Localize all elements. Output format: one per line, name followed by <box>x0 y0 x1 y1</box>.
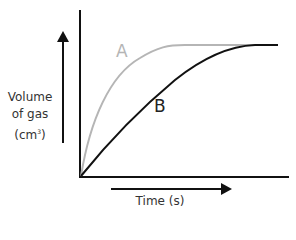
x-axis-label: Time (s) <box>120 194 200 208</box>
curve-b <box>81 45 278 176</box>
x-arrow-head-icon <box>221 183 232 195</box>
y-label-line-1: Volume <box>2 89 58 106</box>
curve-a <box>81 45 278 176</box>
y-arrow-head-icon <box>57 31 69 42</box>
y-label-line-2: of gas <box>2 106 58 123</box>
curve-a-label: A <box>116 41 128 61</box>
curve-b-label: B <box>154 96 166 116</box>
y-label-line-3: (cm3) <box>2 123 58 144</box>
y-axis-label: Volume of gas (cm3) <box>2 89 58 144</box>
